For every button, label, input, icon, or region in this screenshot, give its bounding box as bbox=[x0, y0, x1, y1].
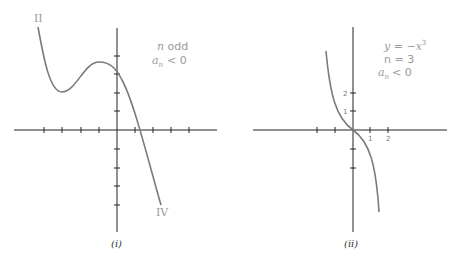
caption-ii: (ii) bbox=[344, 238, 358, 249]
x-tick-label-1: 1 bbox=[368, 135, 372, 143]
panel-i: II IV n odd an< 0 (i) bbox=[14, 12, 217, 249]
panel-ii: 1 2 2 1 y = −x3 n = 3 an< 0 (ii) bbox=[253, 27, 447, 249]
degree-label: n = 3 bbox=[384, 53, 414, 66]
polynomial-graphs-figure: II IV n odd an< 0 (i) 1 2 2 1 y = −x3 n … bbox=[0, 0, 453, 263]
quadrant-iv-label: IV bbox=[156, 206, 169, 219]
quadrant-ii-label: II bbox=[34, 12, 43, 25]
y-tick-label-2: 2 bbox=[343, 90, 347, 98]
caption-i: (i) bbox=[111, 238, 122, 249]
y-tick-label-1: 1 bbox=[343, 108, 347, 116]
coef-label: an< 0 bbox=[378, 66, 412, 81]
annotation-n-odd: n odd bbox=[157, 40, 188, 53]
equation-label: y = −x3 bbox=[383, 39, 426, 53]
annotation-coef: an< 0 bbox=[152, 54, 187, 69]
x-tick-label-2: 2 bbox=[386, 135, 390, 143]
cubic-curve bbox=[38, 27, 161, 205]
